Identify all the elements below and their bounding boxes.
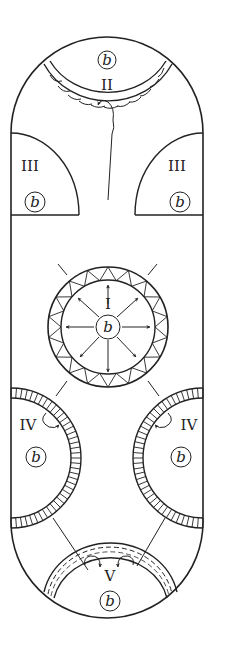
region-v-label: V [104,567,117,585]
region-i-b-label: b [103,318,113,336]
labels: b II III b III b I b IV b IV b V b [20,51,199,611]
region-iv-left-label: IV [20,416,38,434]
region-iv-left-b-label: b [31,448,41,466]
capsule-diagram: b II III b III b I b IV b IV b V b [0,0,225,657]
region-iii-right-b-label: b [175,193,185,211]
region-iv-right-b-label: b [176,448,186,466]
region-v-b-label: b [105,592,115,610]
region-iii-left-label: III [21,157,39,175]
region-ii-label: II [101,76,113,94]
region-iii-left-b-label: b [30,193,40,211]
region-i-label: I [105,295,111,313]
region-iii-right-label: III [168,157,186,175]
region-iv-right-label: IV [181,416,199,434]
region-ii-b-label: b [102,51,112,69]
region-iv-right [133,388,203,528]
